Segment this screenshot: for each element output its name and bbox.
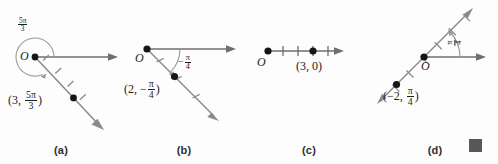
angle-denominator-b: 4 [185,63,191,71]
point-angle-denominator-d: 4 [407,97,414,107]
point-angle-denominator-a: 3 [25,101,37,111]
point-label-c: (3, 0) [296,60,322,72]
origin-label-b: O [135,52,144,64]
origin-label-a: O [20,50,29,62]
end-of-section-marker [469,139,482,152]
point-comma-a: , [18,93,24,107]
point-close-paren-d: ) [415,89,419,103]
origin-point-c [264,47,271,54]
plotted-point-b [171,73,178,80]
panel-caption-b: (b) [122,144,246,156]
angle-label-d: π 4 [446,39,463,47]
origin-label-d: O [421,60,430,72]
line-ticks-d [392,14,470,92]
origin-point-a [32,54,39,61]
point-label-a: (3, 5π 3 ) [8,90,42,111]
angle-label-b: − π 4 [178,54,192,71]
polar-coordinates-figure: O 5π 3 (3, 5π 3 ) (a) [0,0,498,164]
origin-point-b [143,45,150,52]
panel-c: O (3, 0) (c) [246,0,372,164]
panel-b: O − π 4 (2, − π 4 ) (b) [122,0,246,164]
ray-ticks-a [43,55,86,100]
panel-d-diagram [372,0,498,136]
point-label-b: (2, − π 4 ) [124,79,160,100]
point-close-paren-b: ) [156,82,160,96]
plotted-point-c [309,47,316,54]
terminal-ray-a [35,57,104,130]
panel-caption-a: (a) [0,144,122,156]
panel-caption-c: (c) [246,144,372,156]
point-close-paren-a: ) [38,93,42,107]
angle-label-a: 5π 3 [17,17,28,33]
origin-label-c: O [257,56,266,68]
initial-ray-d [424,53,486,61]
angle-sign-b: − [178,56,184,67]
panel-a: O 5π 3 (3, 5π 3 ) (a) [0,0,122,164]
point-radius-sign-d: − [387,89,394,103]
point-angle-sign-b: − [140,82,147,96]
point-angle-denominator-b: 4 [148,90,155,100]
plotted-point-a [70,95,77,102]
point-label-d: (−2, π 4 ) [383,86,419,107]
initial-ray-c [268,47,344,55]
point-comma-d: , [400,89,406,103]
initial-ray-b [147,45,236,53]
angle-denominator-d: 4 [456,40,464,46]
angle-denominator-a: 3 [18,25,27,32]
